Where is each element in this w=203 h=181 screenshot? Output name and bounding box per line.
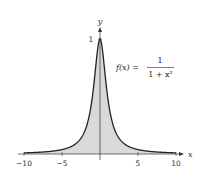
x-tick-label: −10 [16,159,32,168]
x-axis-label: x [188,150,193,159]
chart: −10−5510 1 x y f(x) = 1 1 + x² [0,0,203,181]
x-axis-arrow [179,152,184,156]
formula-lhs: f(x) = [115,63,139,72]
formula-denominator: 1 + x² [148,70,173,79]
y-axis-label: y [97,17,103,26]
y-tick-label: 1 [89,35,94,44]
x-tick-label: 10 [171,159,181,168]
y-axis-arrow [98,27,102,32]
x-tick-label: 5 [136,159,141,168]
x-ticks: −10−5510 [16,152,181,168]
function-annotation: f(x) = 1 1 + x² [115,56,174,79]
formula-numerator: 1 [157,56,162,65]
x-tick-label: −5 [56,159,67,168]
